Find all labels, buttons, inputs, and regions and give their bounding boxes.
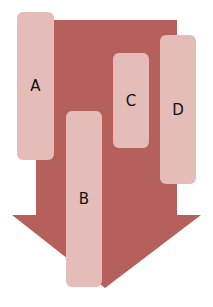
bar-a-label: A (30, 77, 40, 95)
bar-c: C (113, 53, 149, 148)
bar-d: D (160, 35, 196, 184)
bar-b: B (66, 111, 102, 287)
diagram-canvas: A B C D (0, 0, 213, 307)
bar-d-label: D (172, 101, 184, 119)
bar-c-label: C (126, 92, 136, 110)
bar-b-label: B (79, 190, 89, 208)
bar-a: A (17, 12, 54, 160)
